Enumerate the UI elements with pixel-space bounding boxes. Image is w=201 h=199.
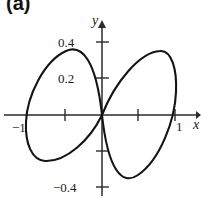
x-axis-label: x bbox=[193, 118, 199, 132]
figure-panel: (a) 0.4 0.2 −0.4 −1 1 y x bbox=[0, 0, 201, 199]
x-tick-label-minus-1: −1 bbox=[12, 121, 26, 134]
y-tick-label-minus-0.4: −0.4 bbox=[53, 181, 77, 194]
y-axis-label: y bbox=[92, 14, 98, 28]
plot-canvas bbox=[0, 0, 201, 199]
y-tick-label-0.2: 0.2 bbox=[58, 72, 74, 85]
x-tick-label-1: 1 bbox=[176, 120, 183, 133]
y-axis-arrow-icon bbox=[98, 20, 106, 28]
lemniscate-curve bbox=[26, 49, 176, 178]
y-tick-label-0.4: 0.4 bbox=[58, 36, 74, 49]
